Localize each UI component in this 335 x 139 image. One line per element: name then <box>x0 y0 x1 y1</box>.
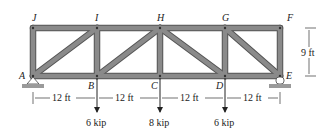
span-label-3: 12 ft <box>180 92 199 103</box>
joint-label-h: H <box>156 12 165 23</box>
span-label-4: 12 ft <box>243 92 262 103</box>
joint-label-c: C <box>151 80 158 91</box>
joint-label-d: D <box>215 80 224 91</box>
span-label-2: 12 ft <box>115 92 134 103</box>
truss-diagram: J I H G F A B C D E 9 ft 12 ft 12 ft 12 … <box>0 0 335 139</box>
truss-members <box>33 28 280 76</box>
joint-label-b: B <box>88 80 94 91</box>
height-label: 9 ft <box>301 47 315 58</box>
joint-label-f: F <box>286 12 294 23</box>
load-label-c: 8 kip <box>149 117 169 128</box>
span-label-1: 12 ft <box>52 92 71 103</box>
load-label-b: 6 kip <box>86 117 106 128</box>
joint-label-j: J <box>32 12 37 23</box>
joint-label-a: A <box>18 70 26 81</box>
joint-label-i: I <box>94 12 99 23</box>
load-label-d: 6 kip <box>214 117 234 128</box>
joint-label-g: G <box>222 12 229 23</box>
joint-label-e: E <box>285 70 292 81</box>
